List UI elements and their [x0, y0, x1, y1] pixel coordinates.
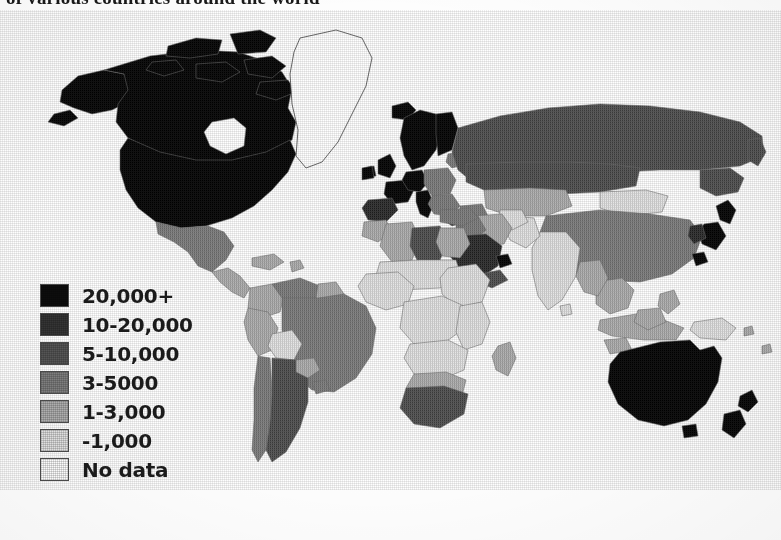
legend-label-3-5000: 3-5000 — [82, 373, 158, 393]
legend-swatch-20000-plus — [40, 284, 69, 307]
legend-swatch-under-1000 — [40, 429, 69, 452]
legend-label-1-3000: 1-3,000 — [82, 402, 165, 422]
legend-label-5-10000: 5-10,000 — [82, 344, 179, 364]
legend-swatch-no-data — [40, 458, 69, 481]
region-sri-lanka — [560, 304, 572, 316]
legend-item: 1-3,000 — [40, 397, 250, 426]
legend-label-20000-plus: 20,000+ — [82, 286, 174, 306]
legend-item: No data — [40, 455, 250, 484]
legend-swatch-5-10000 — [40, 342, 69, 365]
legend-item: 20,000+ — [40, 281, 250, 310]
legend-label-no-data: No data — [82, 460, 168, 480]
legend-item: 3-5000 — [40, 368, 250, 397]
region-ireland — [362, 166, 374, 180]
legend-item: 5-10,000 — [40, 339, 250, 368]
figure-root: of various countries around the world — [0, 0, 781, 540]
legend-swatch-10-20000 — [40, 313, 69, 336]
choropleth-legend: 20,000+ 10-20,000 5-10,000 3-5000 1-3,00… — [40, 281, 250, 484]
legend-item: -1,000 — [40, 426, 250, 455]
legend-swatch-3-5000 — [40, 371, 69, 394]
legend-item: 10-20,000 — [40, 310, 250, 339]
legend-label-under-1000: -1,000 — [82, 431, 152, 451]
region-tasmania — [682, 424, 698, 438]
legend-swatch-1-3000 — [40, 400, 69, 423]
legend-label-10-20000: 10-20,000 — [82, 315, 193, 335]
figure-title-text: of various countries around the world — [6, 0, 320, 9]
